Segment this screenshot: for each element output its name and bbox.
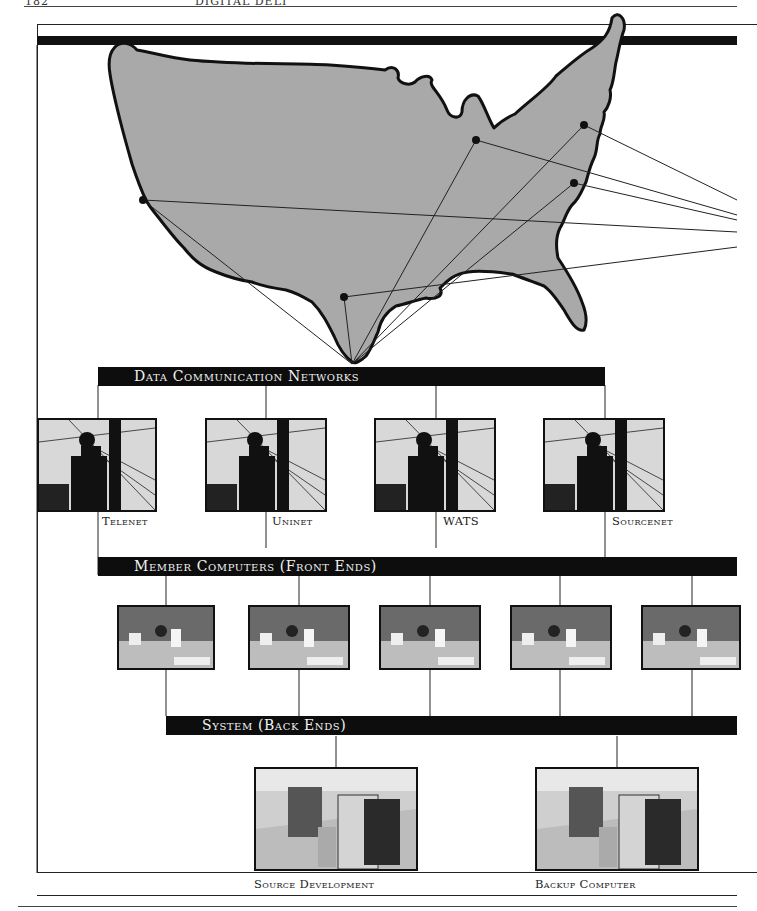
networks-section-bar: Data Communication Networks	[98, 367, 605, 386]
back-end-photo-source-development	[254, 767, 418, 871]
network-photo-wats	[374, 418, 496, 512]
front-end-photo-5	[641, 605, 741, 670]
network-label-telenet: Telenet	[102, 514, 148, 528]
frame-bottom-rule	[37, 895, 737, 896]
page-bottom-rule	[18, 906, 737, 907]
front-ends-section-bar: Member Computers (Front Ends)	[98, 557, 737, 576]
network-label-sourcenet: Sourcenet	[612, 514, 673, 528]
network-photo-telenet	[37, 418, 157, 512]
network-photo-uninet	[205, 418, 327, 512]
back-end-photo-backup-computer	[535, 767, 699, 871]
front-end-photo-4	[510, 605, 612, 670]
network-photo-sourcenet	[543, 418, 665, 512]
back-ends-section-bar: System (Back Ends)	[166, 716, 737, 735]
back-end-label-source-development: Source Development	[254, 877, 374, 891]
front-end-photo-1	[117, 605, 215, 670]
us-map-shape	[109, 15, 624, 363]
front-end-photo-3	[379, 605, 481, 670]
network-label-uninet: Uninet	[272, 514, 312, 528]
front-end-photo-2	[248, 605, 350, 670]
network-label-wats: WATS	[443, 514, 479, 528]
back-end-label-backup-computer: Backup Computer	[535, 877, 636, 891]
